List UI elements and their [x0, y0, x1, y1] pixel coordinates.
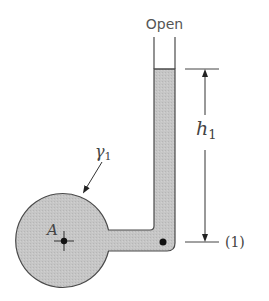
specific-weight-callout: γ1 — [85, 142, 112, 190]
point-a-dot — [61, 238, 67, 244]
piezometer-diagram: Open h1 (1) A γ1 — [0, 0, 269, 301]
gamma1-label: γ1 — [95, 142, 112, 163]
open-label: Open — [146, 16, 183, 32]
point-a-label: A — [45, 221, 58, 239]
gamma1-pointer-arrow — [85, 162, 102, 190]
fluid-body — [16, 69, 175, 287]
h-symbol: h — [196, 117, 208, 139]
gamma-subscript: 1 — [105, 150, 112, 163]
h1-label: h1 — [196, 117, 217, 142]
h1-dimension: h1 — [185, 69, 219, 242]
gamma-symbol: γ — [95, 142, 105, 161]
level-1-point-dot — [160, 239, 167, 246]
h-subscript: 1 — [208, 127, 216, 142]
level-1-label: (1) — [225, 234, 245, 250]
vessel-and-tube-fluid — [16, 69, 175, 287]
